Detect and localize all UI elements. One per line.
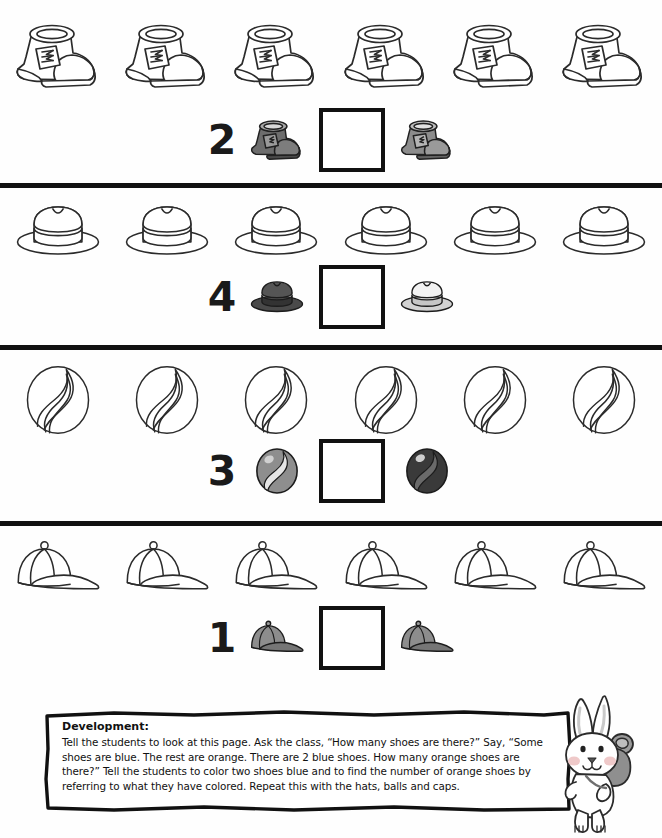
equation-row-balls: 3 bbox=[0, 435, 662, 507]
shoe-outline-item[interactable] bbox=[10, 16, 106, 96]
ball-dark-icon bbox=[402, 446, 452, 496]
cap-outline-icon bbox=[11, 537, 105, 599]
equation-row-shoes: 2 bbox=[0, 105, 662, 175]
fedora-outline-icon bbox=[121, 201, 213, 261]
cap-outline-item[interactable] bbox=[228, 534, 324, 602]
object-row-balls bbox=[0, 362, 662, 438]
cap-outline-icon bbox=[339, 537, 433, 599]
hat-outline-item[interactable] bbox=[228, 200, 324, 262]
ball-outline-icon bbox=[21, 362, 95, 438]
shoe-outline-item[interactable] bbox=[338, 16, 434, 96]
development-box: Development: Tell the students to look a… bbox=[44, 709, 572, 813]
cap-outline-icon bbox=[448, 537, 542, 599]
shoe-dark-icon-cell[interactable] bbox=[243, 111, 311, 169]
hat-outline-item[interactable] bbox=[447, 200, 543, 262]
cap-gray-right-icon-cell[interactable] bbox=[393, 609, 461, 667]
shoe-outline-icon bbox=[230, 19, 322, 93]
shoe-outline-item[interactable] bbox=[556, 16, 652, 96]
ball-outline-item[interactable] bbox=[338, 362, 434, 438]
ball-outline-icon bbox=[239, 362, 313, 438]
ball-outline-item[interactable] bbox=[228, 362, 324, 438]
shoe-outline-item[interactable] bbox=[228, 16, 324, 96]
development-body: Tell the students to look at this page. … bbox=[62, 735, 558, 793]
object-row-hats bbox=[0, 200, 662, 262]
shoe-gray-icon bbox=[398, 117, 456, 163]
row-divider-2 bbox=[0, 345, 662, 350]
hat-dark-icon-cell[interactable] bbox=[243, 268, 311, 326]
cap-outline-item[interactable] bbox=[10, 534, 106, 602]
equation-row-caps: 1 bbox=[0, 602, 662, 674]
row-divider-1 bbox=[0, 183, 662, 188]
equation-number-hats: 4 bbox=[201, 277, 243, 318]
equation-number-caps: 1 bbox=[201, 618, 243, 659]
ball-outline-icon bbox=[349, 362, 423, 438]
shoe-outline-icon bbox=[340, 19, 432, 93]
shoe-outline-item[interactable] bbox=[447, 16, 543, 96]
shoe-dark-icon bbox=[248, 117, 306, 163]
ball-outline-item[interactable] bbox=[10, 362, 106, 438]
fedora-outline-icon bbox=[12, 201, 104, 261]
fedora-dark-icon bbox=[248, 277, 306, 317]
ball-outline-item[interactable] bbox=[556, 362, 652, 438]
development-title: Development: bbox=[62, 720, 558, 734]
cap-outline-item[interactable] bbox=[119, 534, 215, 602]
equation-row-hats: 4 bbox=[0, 262, 662, 332]
fedora-outline-icon bbox=[558, 201, 650, 261]
shoe-outline-icon bbox=[12, 19, 104, 93]
ball-dark-icon-cell[interactable] bbox=[393, 442, 461, 500]
hat-outline-item[interactable] bbox=[119, 200, 215, 262]
ball-outline-icon bbox=[567, 362, 641, 438]
cap-outline-item[interactable] bbox=[556, 534, 652, 602]
shoe-outline-item[interactable] bbox=[119, 16, 215, 96]
answer-box-caps[interactable] bbox=[319, 606, 385, 670]
development-text: Development: Tell the students to look a… bbox=[62, 720, 558, 793]
hat-outline-item[interactable] bbox=[10, 200, 106, 262]
cap-outline-icon bbox=[557, 537, 651, 599]
shoe-gray-icon-cell[interactable] bbox=[393, 111, 461, 169]
shoe-outline-icon bbox=[449, 19, 541, 93]
equation-number-shoes: 2 bbox=[201, 120, 243, 161]
fedora-light-icon bbox=[398, 277, 456, 317]
hat-light-icon-cell[interactable] bbox=[393, 268, 461, 326]
answer-box-shoes[interactable] bbox=[319, 108, 385, 172]
cap-gray-icon bbox=[397, 617, 457, 659]
object-row-shoes bbox=[0, 16, 662, 96]
object-row-caps bbox=[0, 534, 662, 602]
bunny-mascot bbox=[556, 692, 660, 838]
worksheet-page: 2 bbox=[0, 0, 662, 838]
ball-outline-icon bbox=[130, 362, 204, 438]
fedora-outline-icon bbox=[230, 201, 322, 261]
hat-outline-item[interactable] bbox=[338, 200, 434, 262]
cap-outline-icon bbox=[120, 537, 214, 599]
equation-number-balls: 3 bbox=[201, 451, 243, 492]
ball-outline-icon bbox=[458, 362, 532, 438]
ball-outline-item[interactable] bbox=[447, 362, 543, 438]
cap-gray-left-icon-cell[interactable] bbox=[243, 609, 311, 667]
cap-outline-icon bbox=[229, 537, 323, 599]
ball-gray-icon bbox=[252, 446, 302, 496]
cap-gray-icon bbox=[247, 617, 307, 659]
cap-outline-item[interactable] bbox=[338, 534, 434, 602]
shoe-outline-icon bbox=[558, 19, 650, 93]
shoe-outline-icon bbox=[121, 19, 213, 93]
fedora-outline-icon bbox=[340, 201, 432, 261]
ball-outline-item[interactable] bbox=[119, 362, 215, 438]
row-divider-3 bbox=[0, 521, 662, 526]
ball-gray-icon-cell[interactable] bbox=[243, 442, 311, 500]
fedora-outline-icon bbox=[449, 201, 541, 261]
answer-box-balls[interactable] bbox=[319, 439, 385, 503]
answer-box-hats[interactable] bbox=[319, 265, 385, 329]
cap-outline-item[interactable] bbox=[447, 534, 543, 602]
hat-outline-item[interactable] bbox=[556, 200, 652, 262]
